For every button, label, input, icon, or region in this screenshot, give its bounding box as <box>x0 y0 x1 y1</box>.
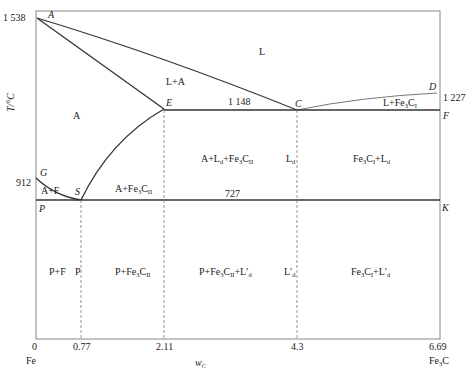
region-A-F: A+F <box>41 186 59 196</box>
temp-1227: 1 227 <box>443 93 466 103</box>
y-axis-label: T/°C <box>6 93 16 112</box>
point-F: F <box>443 111 449 121</box>
region-P-Fe3C-II-Ldp: P+Fe3CII+L′d <box>199 267 252 279</box>
region-L: L <box>259 47 265 57</box>
region-L-A: L+A <box>166 77 185 87</box>
region-Fe3C-I-Ldp: Fe3CI+L′d <box>351 267 390 279</box>
solidus-AE <box>37 18 164 109</box>
region-Ldp: L′d <box>284 267 296 279</box>
region-P: P <box>75 267 81 277</box>
x-tick-4.3: 4.3 <box>291 342 304 352</box>
x-tick-0.77: 0.77 <box>73 342 91 352</box>
region-A-Fe3C-II: A+Fe3CII <box>115 184 152 196</box>
temp-727: 727 <box>225 189 240 199</box>
point-E: E <box>166 98 172 108</box>
region-A-Ld-Fe3C-II: A+Ld+Fe3CII <box>201 154 253 166</box>
x-tick-6.69: 6.69 <box>429 342 447 352</box>
point-A: A <box>48 10 54 20</box>
region-Fe3C-I-Ld: Fe3CI+Ld <box>353 154 390 166</box>
point-C: C <box>295 99 302 109</box>
x-end-fe: Fe <box>26 356 36 366</box>
region-P-F: P+F <box>49 267 66 277</box>
y-tick-1538: 1 538 <box>3 13 26 23</box>
region-Ld: Ld <box>286 154 295 166</box>
region-P-Fe3C-II: P+Fe3CII <box>115 267 150 279</box>
point-K: K <box>442 203 449 213</box>
x-tick-2.11: 2.11 <box>156 342 173 352</box>
point-S: S <box>75 187 80 197</box>
point-P: P <box>39 204 45 214</box>
y-tick-912: 912 <box>16 178 31 188</box>
point-D: D <box>429 82 436 92</box>
temp-1148: 1 148 <box>228 97 251 107</box>
x-tick-0: 0 <box>32 342 37 352</box>
x-axis-label: wC <box>195 358 206 370</box>
region-L-Fe3C-I: L+Fe3CI <box>383 98 417 110</box>
region-A: A <box>73 111 80 121</box>
point-G: G <box>40 168 47 178</box>
x-end-fe3c: Fe3C <box>429 356 449 368</box>
